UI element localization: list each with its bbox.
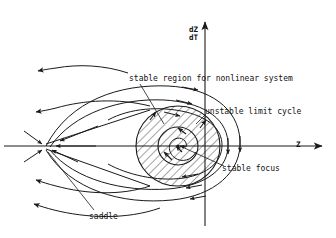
stable-focus-point [176, 144, 179, 147]
phase-portrait-figure: stable region for nonlinear system unsta… [0, 0, 336, 238]
label-dt-denominator: dT [189, 34, 198, 42]
saddle-separatrices [24, 110, 150, 186]
label-dz-dt-axis: dZ dT [189, 26, 198, 42]
label-stable-focus: stable focus [222, 164, 280, 173]
label-z-axis: Z [296, 141, 301, 149]
trajectories-upper-left [36, 66, 150, 112]
label-saddle: saddle [89, 212, 118, 221]
diagram-canvas [0, 0, 336, 238]
label-unstable-limit-cycle: unstable limit cycle [205, 107, 301, 116]
label-stable-region: stable region for nonlinear system [129, 74, 293, 83]
